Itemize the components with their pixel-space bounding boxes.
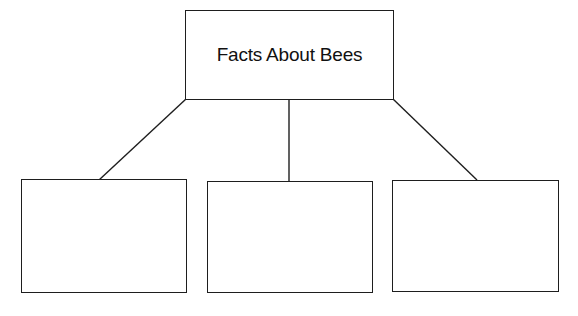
root-node-label: Facts About Bees <box>217 44 363 66</box>
root-node-box[interactable]: Facts About Bees <box>185 10 394 100</box>
child-node-box-right[interactable] <box>392 180 559 292</box>
child-node-box-middle[interactable] <box>207 181 373 293</box>
connector-left <box>99 99 186 180</box>
child-node-box-left[interactable] <box>21 179 187 293</box>
connector-right <box>393 99 477 180</box>
bee-facts-diagram: Facts About Bees <box>0 0 578 316</box>
